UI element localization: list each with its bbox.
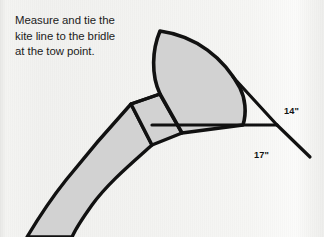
kite-line — [277, 125, 310, 157]
kite-tail-shape — [27, 104, 152, 237]
dimension-label-17in: 17" — [254, 150, 269, 160]
instruction-caption: Measure and tie the kite line to the bri… — [15, 13, 165, 60]
dimension-label-14in: 14" — [284, 106, 299, 116]
figure-canvas: Measure and tie the kite line to the bri… — [0, 0, 324, 237]
